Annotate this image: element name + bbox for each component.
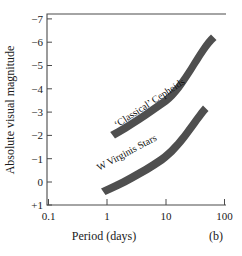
y-tick-label: −1 (31, 153, 43, 165)
x-tick-label: 10 (161, 210, 173, 222)
y-tick-label: 0 (38, 176, 44, 188)
figure-panel-b: −7 −6 −5 −4 −3 −2 −1 0 +1 0.1 1 10 100 (0, 0, 242, 256)
period-luminosity-chart: −7 −6 −5 −4 −3 −2 −1 0 +1 0.1 1 10 100 (0, 0, 242, 256)
y-tick-label: −4 (31, 83, 43, 95)
y-tick-label: −5 (31, 59, 43, 71)
y-axis-ticks (47, 19, 52, 205)
y-tick-label: −2 (31, 129, 43, 141)
y-axis-tick-labels: −7 −6 −5 −4 −3 −2 −1 0 +1 (31, 13, 43, 211)
x-axis-title: Period (days) (72, 229, 136, 243)
band-annotations: ‘Classical’ Cepheids W Virginis Stars (95, 76, 187, 173)
x-axis-tick-labels: 0.1 1 10 100 (42, 210, 234, 222)
y-axis-title: Absolute visual magnitude (3, 46, 17, 175)
y-tick-label: −7 (31, 13, 43, 25)
y-tick-label: −6 (31, 36, 43, 48)
x-tick-label: 100 (216, 210, 233, 222)
y-tick-label: −3 (31, 106, 43, 118)
panel-label: (b) (209, 229, 223, 243)
x-axis-ticks (49, 199, 225, 205)
x-tick-label: 0.1 (42, 210, 56, 222)
x-tick-label: 1 (104, 210, 110, 222)
annotation-classical-cepheids: ‘Classical’ Cepheids (112, 76, 187, 130)
data-bands (101, 35, 217, 196)
